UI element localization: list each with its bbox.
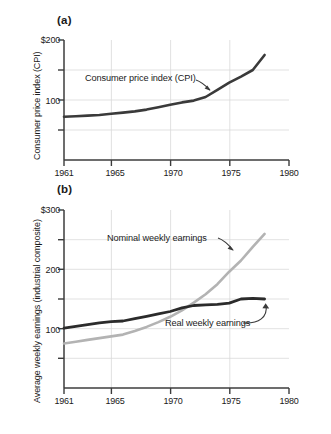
panel-a-x-ticks <box>64 160 289 166</box>
real-series-label: Real weekly earnings <box>165 318 250 328</box>
panel-b-plot <box>0 178 331 434</box>
panel-a-plot <box>0 0 331 190</box>
chart-panel-a: (a) Consumer price index (CPI) $200 100 … <box>0 0 331 190</box>
panel-b-x-ticks <box>64 388 289 394</box>
nominal-annotation-arrowhead <box>228 246 234 251</box>
panel-b-y-ticks <box>58 210 64 358</box>
real-annotation-arrowhead <box>262 303 269 308</box>
nominal-series-label: Nominal weekly earnings <box>107 233 207 243</box>
cpi-series-label: Consumer price index (CPI) <box>85 73 196 83</box>
chart-panel-b: (b) Average weekly earnings (industrial … <box>0 178 331 434</box>
series-consumer-price-index <box>64 55 265 117</box>
